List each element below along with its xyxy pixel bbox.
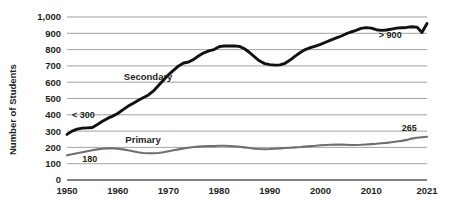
x-tick-label-1950: 1950 bbox=[56, 185, 77, 196]
x-tick-label-1970: 1970 bbox=[158, 185, 179, 196]
y-tick-label-500: 500 bbox=[45, 93, 61, 104]
secondary-start-annotation: < 300 bbox=[72, 110, 95, 120]
x-axis-tick-labels: 19501960197019801990200020102021 bbox=[56, 185, 438, 196]
y-tick-label-900: 900 bbox=[45, 28, 61, 39]
series-label-secondary: Secondary bbox=[124, 71, 173, 82]
y-tick-label-200: 200 bbox=[45, 142, 61, 153]
x-tick-label-2021: 2021 bbox=[416, 185, 438, 196]
x-tick-label-1960: 1960 bbox=[107, 185, 128, 196]
gridlines bbox=[67, 17, 427, 180]
primary-end-annotation: 265 bbox=[402, 123, 417, 133]
y-tick-label-800: 800 bbox=[45, 44, 61, 55]
y-tick-label-0: 0 bbox=[56, 174, 61, 185]
series-line-secondary bbox=[67, 24, 427, 135]
series-line-primary bbox=[67, 137, 427, 155]
x-tick-label-2000: 2000 bbox=[310, 185, 331, 196]
y-tick-label-700: 700 bbox=[45, 60, 61, 71]
y-tick-label-100: 100 bbox=[45, 158, 61, 169]
secondary-end-annotation: > 900 bbox=[379, 30, 402, 40]
y-tick-label-300: 300 bbox=[45, 126, 61, 137]
y-tick-label-400: 400 bbox=[45, 109, 61, 120]
y-tick-label-1000: 1,000 bbox=[37, 11, 61, 22]
x-tick-label-1980: 1980 bbox=[209, 185, 230, 196]
series-label-primary: Primary bbox=[125, 134, 161, 145]
y-tick-label-600: 600 bbox=[45, 77, 61, 88]
student-enrollment-line-chart: 01002003004005006007008009001,000 195019… bbox=[0, 0, 458, 219]
x-tick-label-1990: 1990 bbox=[259, 185, 280, 196]
x-tick-label-2010: 2010 bbox=[361, 185, 382, 196]
y-axis-title: Number of Students bbox=[7, 64, 18, 155]
y-axis-tick-labels: 01002003004005006007008009001,000 bbox=[37, 11, 61, 185]
data-series bbox=[67, 24, 427, 156]
chart-canvas: 01002003004005006007008009001,000 195019… bbox=[0, 0, 458, 219]
primary-start-annotation: 180 bbox=[82, 154, 97, 164]
